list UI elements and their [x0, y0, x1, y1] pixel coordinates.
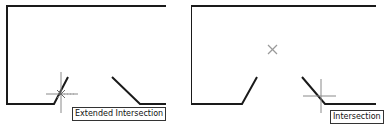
- geometry-outline-left[interactable]: [7, 6, 166, 104]
- geometry-outline-right[interactable]: [112, 77, 166, 104]
- osnap-tooltip: Intersection: [330, 110, 384, 124]
- panel-intersection: Intersection: [191, 0, 382, 130]
- geometry-outline-left[interactable]: [191, 6, 376, 104]
- panel-extended-intersection: Extended Intersection: [0, 0, 191, 130]
- osnap-tooltip: Extended Intersection: [72, 107, 166, 121]
- x-marker-icon: [268, 45, 277, 54]
- geometry-outline-right[interactable]: [302, 77, 376, 104]
